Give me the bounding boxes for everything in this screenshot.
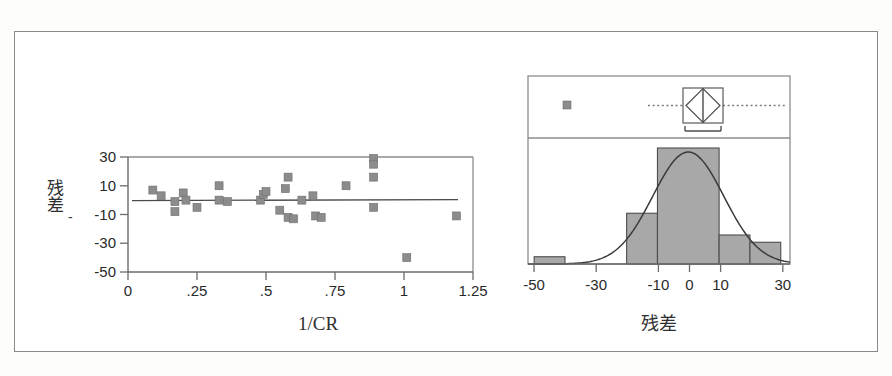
scatter-xtick-0: 0 — [124, 282, 132, 299]
dist-xtick-5: 30 — [774, 276, 791, 293]
scatter-point — [262, 188, 270, 196]
histogram-bar — [534, 257, 565, 264]
residual-scatter-panel: 30 10 -10 -30 -50 0 .25 .5 .75 1 1.25 — [0, 0, 520, 376]
scatter-reference-line — [132, 200, 458, 201]
histogram-bars — [534, 148, 781, 264]
scatter-point — [317, 213, 325, 221]
figure-root: 30 10 -10 -30 -50 0 .25 .5 .75 1 1.25 — [0, 0, 892, 376]
scatter-ytick-0: 30 — [99, 148, 116, 165]
scatter-point — [157, 192, 165, 200]
scatter-point — [342, 182, 350, 190]
scatter-point — [149, 186, 157, 194]
scatter-yaxis-title-dash: - — [68, 209, 73, 225]
histogram-bar — [657, 148, 719, 264]
histogram-bar — [627, 213, 658, 264]
boxplot-shortest-half-bracket — [685, 126, 721, 131]
scatter-ytick-4: -50 — [94, 263, 116, 280]
scatter-ytick-2: -10 — [94, 206, 116, 223]
dist-xtick-0: -50 — [523, 276, 545, 293]
dist-x-ticks — [534, 264, 783, 272]
dist-xtick-4: 10 — [712, 276, 729, 293]
scatter-ytick-1: 10 — [99, 177, 116, 194]
dist-xaxis-title: 残差 — [641, 313, 677, 334]
scatter-point — [403, 254, 411, 262]
scatter-data-markers — [149, 154, 461, 261]
scatter-xtick-4: 1 — [400, 282, 408, 299]
scatter-xtick-2: .5 — [260, 282, 273, 299]
scatter-axes — [128, 157, 473, 272]
scatter-point — [171, 208, 179, 216]
residual-scatter-svg: 30 10 -10 -30 -50 0 .25 .5 .75 1 1.25 — [0, 0, 520, 376]
scatter-point — [215, 196, 223, 204]
scatter-point — [215, 182, 223, 190]
scatter-yaxis-title: 残 差 — [44, 180, 66, 215]
boxplot-group — [563, 88, 785, 131]
residual-distribution-svg: -50 -30 -10 0 10 30 残差 — [480, 0, 892, 376]
dist-xtick-1: -30 — [585, 276, 607, 293]
scatter-point — [370, 203, 378, 211]
scatter-point — [193, 203, 201, 211]
scatter-xtick-3: .75 — [325, 282, 346, 299]
residual-distribution-panel: -50 -30 -10 0 10 30 残差 — [480, 0, 892, 376]
scatter-point — [452, 212, 460, 220]
dist-xtick-2: -10 — [648, 276, 670, 293]
scatter-point — [276, 206, 284, 214]
scatter-ytick-3: -30 — [94, 234, 116, 251]
histogram-bar — [719, 235, 750, 264]
scatter-point — [284, 173, 292, 181]
scatter-point — [281, 185, 289, 193]
scatter-point — [370, 173, 378, 181]
scatter-y-ticks — [120, 157, 128, 272]
scatter-point — [182, 196, 190, 204]
boxplot-outlier-point — [563, 101, 571, 109]
scatter-yaxis-title-char-1: 差 — [44, 197, 66, 214]
scatter-point — [223, 198, 231, 206]
scatter-x-ticks — [128, 272, 473, 280]
scatter-xtick-1: .25 — [187, 282, 208, 299]
scatter-point — [290, 215, 298, 223]
scatter-xaxis-title: 1/CR — [298, 313, 338, 334]
dist-xtick-3: 0 — [685, 276, 693, 293]
scatter-point — [309, 192, 317, 200]
scatter-point — [370, 160, 378, 168]
scatter-point — [179, 189, 187, 197]
scatter-point — [171, 198, 179, 206]
scatter-point — [298, 196, 306, 204]
